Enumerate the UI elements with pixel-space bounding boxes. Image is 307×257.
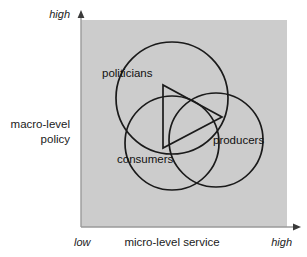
diagram-canvas: politicians producers consumers high mac… <box>0 0 307 257</box>
x-axis-title: micro-level service <box>124 236 219 248</box>
diagram-figure: politicians producers consumers high mac… <box>0 0 307 257</box>
y-axis-title-line2: policy <box>41 133 71 145</box>
x-axis-low-label: low <box>74 236 92 248</box>
x-axis-arrow-icon <box>293 224 301 231</box>
y-axis-title-line1: macro-level <box>11 118 70 130</box>
label-producers: producers <box>213 134 264 146</box>
label-politicians: politicians <box>102 67 153 79</box>
y-axis-arrow-icon <box>78 10 85 18</box>
y-axis-high-label: high <box>49 8 70 20</box>
x-axis-high-label: high <box>271 236 292 248</box>
label-consumers: consumers <box>117 153 173 165</box>
plot-area-background <box>81 20 287 227</box>
